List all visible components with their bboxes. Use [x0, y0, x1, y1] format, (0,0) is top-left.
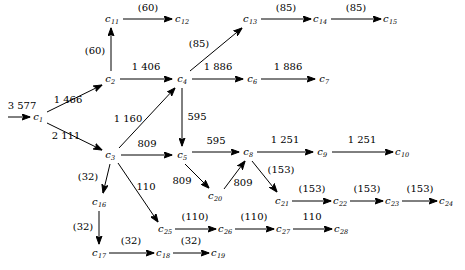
node-c7: c7 [319, 74, 329, 84]
node-c27-base: c [276, 223, 282, 234]
edge-label-c25-to-c26: (110) [182, 212, 209, 222]
node-c20-subscript: 20 [214, 195, 222, 203]
edge-label-c23-to-c24: (153) [407, 184, 434, 194]
node-c15: c15 [383, 14, 397, 24]
edge-label-c17-to-c18: (32) [121, 236, 142, 246]
node-c17: c17 [92, 248, 106, 258]
node-c1-base: c [33, 111, 39, 122]
node-c26-subscript: 26 [224, 228, 232, 236]
node-c5-subscript: 5 [183, 154, 187, 162]
node-c8-subscript: 8 [249, 151, 253, 159]
node-c19: c19 [211, 248, 225, 258]
node-c16-subscript: 16 [98, 201, 106, 209]
edge-label-c27-to-c28: 110 [302, 212, 321, 222]
edge-label-c13-to-c14: (85) [276, 3, 297, 13]
node-c20-base: c [208, 190, 214, 201]
node-c9-subscript: 9 [323, 151, 327, 159]
node-c12-base: c [175, 13, 181, 24]
edge-label-c9-to-c10: 1 251 [348, 135, 377, 145]
node-c24: c24 [439, 196, 453, 206]
edge-label-c3-to-c25: 110 [136, 182, 155, 192]
edge-label-c11-to-c12: (60) [138, 3, 159, 13]
edge-label-c8-to-c9: 1 251 [271, 135, 300, 145]
node-c7-base: c [319, 73, 325, 84]
node-c14: c14 [313, 14, 327, 24]
node-c8-base: c [243, 146, 249, 157]
edge-label-c2-to-c4: 1 406 [132, 62, 161, 72]
edge-label-c6-to-c7: 1 886 [274, 62, 303, 72]
node-c11: c11 [105, 14, 119, 24]
node-c24-subscript: 24 [445, 200, 453, 208]
node-c16-base: c [92, 196, 98, 207]
edge-label-c21-to-c22: (153) [299, 184, 326, 194]
node-c12: c12 [175, 14, 189, 24]
node-c19-subscript: 19 [217, 252, 225, 260]
node-c17-subscript: 17 [98, 252, 106, 260]
edge-c3-to-c16 [103, 164, 110, 193]
node-c3-subscript: 3 [111, 154, 115, 162]
edge-label-c4-to-c6: 1 886 [204, 62, 233, 72]
node-c3-base: c [105, 149, 111, 160]
node-c14-base: c [313, 13, 319, 24]
node-c9: c9 [317, 147, 327, 157]
node-c18-base: c [156, 247, 162, 258]
edge-label-c1-to-c2: 1 466 [54, 95, 83, 105]
node-c17-base: c [92, 247, 98, 258]
node-c13: c13 [243, 14, 257, 24]
edge-label-c4-to-c13: (85) [189, 39, 210, 49]
node-c14-subscript: 14 [319, 18, 327, 26]
node-c15-subscript: 15 [389, 18, 397, 26]
node-c28: c28 [334, 224, 348, 234]
node-c18-subscript: 18 [162, 252, 170, 260]
edge-label-c26-to-c27: (110) [241, 212, 268, 222]
edge-label-c16-to-c17: (32) [73, 222, 94, 232]
edge-c3-to-c25 [118, 163, 158, 222]
node-c6: c6 [247, 74, 257, 84]
node-c23: c23 [385, 196, 399, 206]
node-c6-base: c [247, 73, 253, 84]
edge-label-c3-to-c16: (32) [78, 172, 99, 182]
node-c4-subscript: 4 [183, 78, 187, 86]
edge-label-c8-to-c21: (153) [268, 165, 295, 175]
node-c2-subscript: 2 [111, 78, 115, 86]
node-c22-base: c [333, 195, 339, 206]
node-c26-base: c [218, 223, 224, 234]
node-c7-subscript: 7 [325, 78, 329, 86]
edge-label-c5-to-c20: 809 [172, 176, 191, 186]
node-c11-base: c [105, 13, 111, 24]
edge-label-c1-to-c3: 2 111 [52, 131, 81, 141]
node-c10-subscript: 10 [401, 151, 409, 159]
node-c12-subscript: 12 [181, 18, 189, 26]
edge-label-c20-to-c8: 809 [233, 178, 252, 188]
node-c16: c16 [92, 197, 106, 207]
node-c23-base: c [385, 195, 391, 206]
node-c10: c10 [395, 147, 409, 157]
node-c26: c26 [218, 224, 232, 234]
node-c2-base: c [105, 73, 111, 84]
edge-label-c4-to-c5: 595 [187, 112, 206, 122]
edge-label-c18-to-c19: (32) [181, 236, 202, 246]
node-c3: c3 [105, 150, 115, 160]
node-c27-subscript: 27 [282, 228, 290, 236]
node-c27: c27 [276, 224, 290, 234]
node-c13-subscript: 13 [249, 18, 257, 26]
node-c1: c1 [33, 112, 43, 122]
node-c2: c2 [105, 74, 115, 84]
node-c21-subscript: 21 [281, 200, 289, 208]
edge-label-c3-to-c5: 809 [137, 139, 156, 149]
node-c25-subscript: 25 [164, 228, 172, 236]
edge-label-c3-to-c4: 1 160 [114, 114, 143, 124]
node-c9-base: c [317, 146, 323, 157]
node-c25-base: c [158, 223, 164, 234]
node-c19-base: c [211, 247, 217, 258]
edge-label-source-to-c1: 3 577 [8, 101, 37, 111]
node-c24-base: c [439, 195, 445, 206]
node-c10-base: c [395, 146, 401, 157]
edge-label-c5-to-c8: 595 [206, 136, 225, 146]
node-c1-subscript: 1 [39, 116, 43, 124]
node-c28-subscript: 28 [340, 228, 348, 236]
node-c21: c21 [275, 196, 289, 206]
node-c23-subscript: 23 [391, 200, 399, 208]
node-c22-subscript: 22 [339, 200, 347, 208]
node-c4-base: c [177, 73, 183, 84]
